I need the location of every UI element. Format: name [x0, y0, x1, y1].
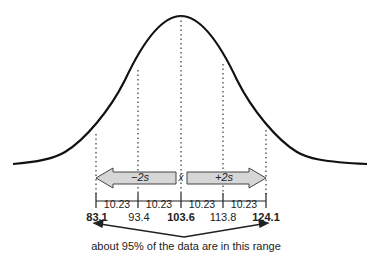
tick-value: 113.8: [210, 211, 237, 223]
segment-width: 10.23: [231, 198, 257, 210]
tick-value: 93.4: [128, 211, 149, 223]
segment-width: 10.23: [189, 198, 215, 210]
segment-width: 10.23: [104, 198, 130, 210]
tick-value: 83.1: [86, 211, 107, 223]
plus-2s-label: +2s: [215, 171, 233, 183]
range-caption: about 95% of the data are in this range: [91, 240, 281, 252]
minus-2s-label: −2s: [131, 171, 149, 183]
mean-symbol: x̄: [179, 172, 184, 183]
tick-value: 124.1: [252, 211, 280, 223]
tick-value: 103.6: [167, 211, 195, 223]
sd-guide-lines: [96, 16, 266, 195]
segment-width: 10.23: [146, 198, 172, 210]
bell-curve: [13, 16, 367, 164]
